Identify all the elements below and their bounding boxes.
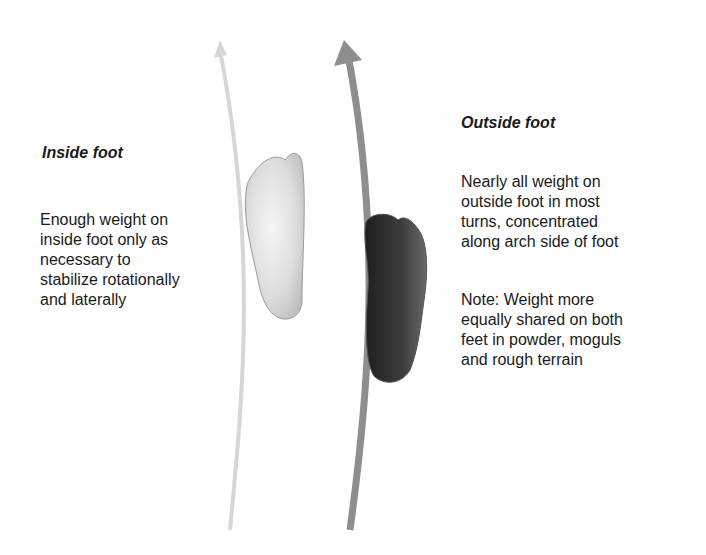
inside-foot-icon [245, 153, 304, 319]
inside-foot-heading: Inside foot [42, 144, 123, 162]
outside-foot-note: Note: Weight more equally shared on both… [461, 290, 623, 370]
inside-foot-description: Enough weight on inside foot only as nec… [40, 210, 180, 310]
outside-foot-icon [365, 214, 427, 382]
inside-path-arrow-icon [214, 40, 244, 530]
outside-path-arrow-icon [334, 40, 369, 530]
outside-foot-description: Nearly all weight on outside foot in mos… [461, 172, 618, 252]
outside-foot-heading: Outside foot [461, 114, 555, 132]
